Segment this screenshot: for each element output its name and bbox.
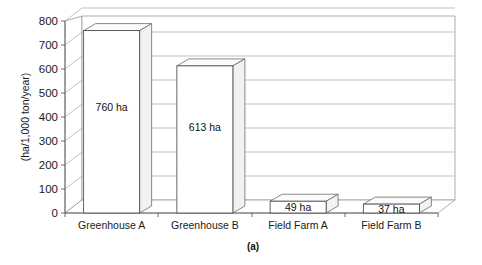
bar-chart-3d: 8007006005004003002001000 760 ha613 ha49… [0, 0, 482, 265]
bar-front-face-2 [177, 66, 233, 213]
y-tick-label-200: 200 [39, 159, 58, 171]
category-label-1: Greenhouse A [78, 219, 145, 231]
bar-value-label-1: 760 ha [96, 101, 128, 113]
category-label-3: Field Farm A [268, 219, 328, 231]
left-side-wall [65, 16, 82, 213]
figure-caption: (a) [247, 241, 259, 252]
category-label-2: Greenhouse B [171, 219, 239, 231]
bar-2 [177, 59, 245, 213]
bar-side-face-1 [140, 24, 152, 213]
bar-value-label-4: 37 ha [378, 203, 404, 215]
category-label-4: Field Farm B [361, 219, 421, 231]
bar-side-face-2 [233, 59, 245, 213]
y-tick-label-700: 700 [39, 39, 58, 51]
figure-container: 8007006005004003002001000 760 ha613 ha49… [0, 0, 482, 265]
bar-value-label-3: 49 ha [285, 201, 311, 213]
y-tick-label-300: 300 [39, 135, 58, 147]
y-axis-title: (ha/1,000 ton/year) [19, 73, 31, 162]
y-tick-label-100: 100 [39, 183, 58, 195]
y-tick-label-500: 500 [39, 87, 58, 99]
y-tick-label-0: 0 [52, 207, 58, 219]
bar-1 [84, 24, 152, 213]
y-tick-label-600: 600 [39, 63, 58, 75]
y-tick-label-800: 800 [39, 15, 58, 27]
bar-front-face-1 [84, 31, 140, 213]
y-tick-label-400: 400 [39, 111, 58, 123]
bar-value-label-2: 613 ha [189, 121, 221, 133]
